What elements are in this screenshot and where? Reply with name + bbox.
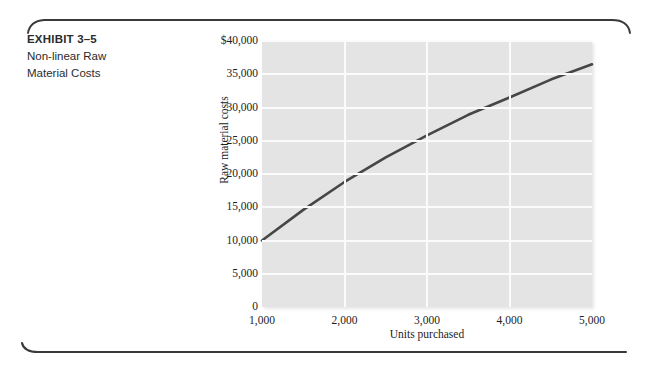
y-tick-label: $40,000	[188, 35, 258, 47]
plot-area	[262, 41, 592, 307]
y-tick-label: 10,000	[188, 235, 258, 247]
x-axis-title: Units purchased	[262, 328, 592, 340]
gridline-vertical	[509, 41, 511, 307]
y-tick-label: 0	[188, 301, 258, 313]
exhibit-number: EXHIBIT 3–5	[27, 31, 177, 48]
y-tick-label: 5,000	[188, 268, 258, 280]
gridline-vertical	[344, 41, 346, 307]
chart-figure: 05,00010,00015,00020,00025,00030,00035,0…	[196, 28, 616, 358]
exhibit-page: EXHIBIT 3–5 Non-linear Raw Material Cost…	[0, 0, 645, 378]
x-tick-label: 4,000	[478, 315, 542, 327]
exhibit-caption: EXHIBIT 3–5 Non-linear Raw Material Cost…	[27, 31, 177, 82]
gridline-vertical	[426, 41, 428, 307]
x-tick-label: 2,000	[313, 315, 377, 327]
x-tick-label: 5,000	[560, 315, 624, 327]
exhibit-subtitle-line2: Material Costs	[27, 65, 177, 82]
y-axis-title: Raw material costs	[218, 60, 230, 220]
exhibit-subtitle-line1: Non-linear Raw	[27, 48, 177, 65]
x-tick-label: 3,000	[395, 315, 459, 327]
x-tick-label: 1,000	[230, 315, 294, 327]
